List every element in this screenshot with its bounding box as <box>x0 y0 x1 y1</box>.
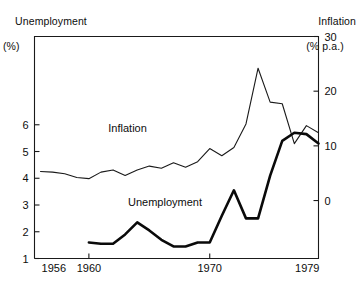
left-tick-label: 3 <box>22 199 28 211</box>
left-tick-label: 5 <box>22 146 28 158</box>
axis-ticks <box>35 37 319 259</box>
bottom-tick-label: 1956 <box>42 262 66 274</box>
right-tick-label: 0 <box>325 195 331 207</box>
inflation-label: Inflation <box>108 122 147 134</box>
plot-area: 12345601020301956196019701979 InflationU… <box>0 0 358 289</box>
chart-figure: Unemployment (%) Inflation (% p.a.) 1234… <box>0 0 358 289</box>
series-line-unemployment <box>89 133 319 247</box>
bottom-tick-label: 1979 <box>295 262 319 274</box>
unemployment-label: Unemployment <box>128 196 202 208</box>
bottom-tick-label: 1960 <box>77 262 101 274</box>
left-tick-label: 2 <box>22 226 28 238</box>
left-tick-label: 4 <box>22 172 28 184</box>
left-tick-label: 1 <box>22 253 28 265</box>
plot-frame <box>35 37 319 259</box>
bottom-tick-label: 1970 <box>197 262 221 274</box>
axis-tick-labels: 12345601020301956196019701979 <box>22 31 336 274</box>
right-tick-label: 30 <box>325 31 337 43</box>
series-line-inflation <box>41 68 319 178</box>
data-series <box>41 68 319 246</box>
left-tick-label: 6 <box>22 119 28 131</box>
plot-frame-path <box>35 37 319 259</box>
right-tick-label: 10 <box>325 140 337 152</box>
right-tick-label: 20 <box>325 85 337 97</box>
series-annotations: InflationUnemployment <box>108 122 202 209</box>
